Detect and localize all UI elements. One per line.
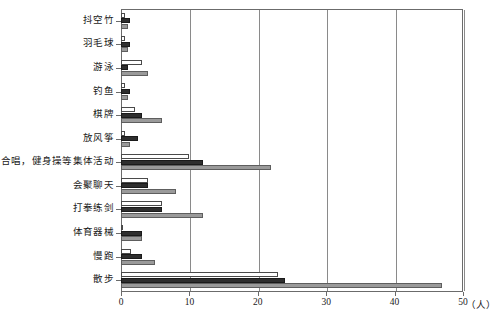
bar xyxy=(121,83,125,88)
bar xyxy=(121,42,130,47)
bar xyxy=(121,142,130,147)
x-axis-tick-label: 40 xyxy=(390,297,400,307)
bar xyxy=(121,178,148,183)
bar-chart: 抖空竹羽毛球游泳钓鱼棋牌放风筝合唱，健身操等集体活动会聚聊天打拳练剑体育器械慢跑… xyxy=(0,0,499,321)
x-axis-tick xyxy=(258,292,259,296)
y-axis-label: 羽毛球 xyxy=(83,38,114,49)
y-axis-label: 打拳练剑 xyxy=(73,203,114,214)
bar xyxy=(121,201,162,206)
y-axis-label: 棋牌 xyxy=(93,109,114,120)
bar xyxy=(121,189,176,194)
y-axis-category-labels: 抖空竹羽毛球游泳钓鱼棋牌放风筝合唱，健身操等集体活动会聚聊天打拳练剑体育器械慢跑… xyxy=(0,9,118,292)
bar xyxy=(121,136,138,141)
x-axis-tick-label: 20 xyxy=(253,297,263,307)
x-axis-unit-label: （人） xyxy=(466,297,496,311)
bar xyxy=(121,272,278,277)
x-axis-tick xyxy=(395,292,396,296)
bar xyxy=(121,231,142,236)
bar xyxy=(121,183,148,188)
bar-groups xyxy=(121,9,463,292)
bar xyxy=(121,118,162,123)
x-axis-tick xyxy=(189,292,190,296)
x-axis-tick-label: 10 xyxy=(185,297,195,307)
bar xyxy=(121,107,135,112)
bar xyxy=(121,113,142,118)
bar xyxy=(121,213,203,218)
bar xyxy=(121,254,142,259)
bar xyxy=(121,131,125,136)
x-axis-tick-label: 0 xyxy=(119,297,124,307)
bar xyxy=(121,71,148,76)
bar xyxy=(121,225,123,230)
x-axis-tick xyxy=(463,292,464,296)
x-axis-tick xyxy=(121,292,122,296)
y-axis-label: 抖空竹 xyxy=(83,15,114,26)
gridline-50 xyxy=(464,10,465,291)
bar xyxy=(121,283,442,288)
x-axis-tick xyxy=(326,292,327,296)
y-axis-label: 游泳 xyxy=(93,62,114,73)
y-axis-label: 钓鱼 xyxy=(93,86,114,97)
bar xyxy=(121,260,155,265)
bar xyxy=(121,207,162,212)
y-axis-label: 放风筝 xyxy=(83,133,114,144)
bar xyxy=(121,249,131,254)
bar xyxy=(121,160,203,165)
bar xyxy=(121,24,128,29)
bar xyxy=(121,65,128,70)
y-axis-label: 会聚聊天 xyxy=(73,180,114,191)
y-axis-label: 体育器械 xyxy=(73,227,114,238)
bar xyxy=(121,95,128,100)
bar xyxy=(121,236,142,241)
bar xyxy=(121,278,285,283)
bar xyxy=(121,165,271,170)
bar xyxy=(121,13,125,18)
bar xyxy=(121,36,125,41)
x-axis-tick-label: 30 xyxy=(321,297,331,307)
y-axis-label: 散步 xyxy=(93,274,114,285)
bar xyxy=(121,60,142,65)
bar xyxy=(121,47,128,52)
x-axis: 01020304050 xyxy=(121,292,463,312)
bar xyxy=(121,154,189,159)
y-axis-label: 慢跑 xyxy=(93,251,114,262)
bar xyxy=(121,89,130,94)
y-axis-label: 合唱，健身操等集体活动 xyxy=(1,156,114,167)
bar xyxy=(121,18,130,23)
